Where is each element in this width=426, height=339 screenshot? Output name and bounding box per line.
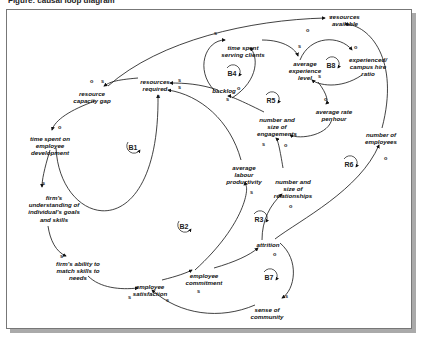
link-productivity-to-required xyxy=(168,90,241,160)
var-sense-of-community: sense of community xyxy=(250,306,283,320)
var-number-of-employees: number of employees xyxy=(365,131,397,145)
polarity: s xyxy=(178,84,181,90)
loop-r3: R3 xyxy=(255,216,264,223)
polarity: s xyxy=(60,253,63,259)
polarity: o xyxy=(384,155,387,161)
polarity: s xyxy=(101,78,104,84)
loop-b4: B4 xyxy=(228,70,237,77)
link-experience-to-ratio xyxy=(300,40,352,60)
polarity: s xyxy=(318,73,321,79)
polarity: o xyxy=(237,85,240,91)
loop-b7: B7 xyxy=(265,274,274,281)
loop-r6: R6 xyxy=(345,161,354,168)
polarity: s xyxy=(250,189,253,195)
var-number-size-engagements: number and size of engagements xyxy=(257,116,297,138)
polarity: s xyxy=(262,141,265,147)
polarity: o xyxy=(324,96,327,102)
polarity: o xyxy=(284,142,287,148)
polarity: s xyxy=(157,93,160,99)
var-experienced-campus-hire-ratio: experienced/ campus hire ratio xyxy=(349,56,387,78)
var-average-experience-level: average experience level xyxy=(289,60,321,82)
polarity: o xyxy=(354,44,357,50)
loop-b1: B1 xyxy=(129,144,138,151)
link-attrition-to-community xyxy=(280,243,293,298)
polarity: s xyxy=(226,96,229,102)
var-employee-satisfaction: employee satisfaction xyxy=(133,283,167,297)
polarity: o xyxy=(289,203,292,209)
polarity: s xyxy=(128,294,131,300)
var-attrition: attrition xyxy=(256,241,279,248)
link-serving-to-experience xyxy=(262,40,298,56)
loop-r5: R5 xyxy=(267,97,276,104)
link-commitment-to-productivity xyxy=(195,185,247,270)
polarity: o xyxy=(306,27,309,33)
loop-b8: B8 xyxy=(327,62,336,69)
polarity: s xyxy=(197,288,200,294)
polarity: o xyxy=(273,251,276,257)
var-average-labour-productivity: average labour productivity xyxy=(226,164,261,186)
link-understanding-to-ability xyxy=(48,226,66,256)
var-average-rate-per-hour: average rate per hour xyxy=(316,108,352,122)
polarity: s xyxy=(329,14,332,20)
link-attrition-to-relationships xyxy=(262,194,282,240)
var-firms-understanding: firm's understanding of individual's goa… xyxy=(28,194,80,223)
link-commitment-to-attrition xyxy=(214,248,258,268)
var-backlog: backlog xyxy=(212,87,235,94)
var-employee-commitment: employee commitment xyxy=(186,272,223,286)
polarity: o xyxy=(90,78,93,84)
polarity: s xyxy=(214,30,217,36)
var-number-size-relationships: number and size of relationships xyxy=(274,178,313,200)
var-resources-available: resources available xyxy=(330,13,360,27)
var-resource-capacity-gap: resource capacity gap xyxy=(73,90,111,104)
var-resources-required: resources required xyxy=(140,78,170,92)
var-firms-ability: firm's ability to match skills to needs xyxy=(56,260,100,282)
var-time-spent-serving-clients: time spent serving clients xyxy=(221,44,264,58)
loop-b2: B2 xyxy=(180,223,189,230)
link-relationships-to-engagements xyxy=(276,138,283,168)
polarity: s xyxy=(298,43,301,49)
causal-links xyxy=(0,0,426,339)
var-time-spent-employee-development: time spent on employee development xyxy=(30,135,70,157)
link-engagements-to-backlog xyxy=(228,96,264,112)
polarity: s xyxy=(166,297,169,303)
polarity: o xyxy=(58,124,61,130)
polarity: s xyxy=(285,293,288,299)
polarity: s xyxy=(178,77,181,83)
polarity: s xyxy=(42,180,45,186)
